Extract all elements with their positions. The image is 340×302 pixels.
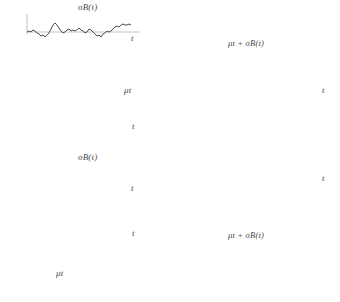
drift-bottom-axis-label: t [132,228,135,238]
drift-top-axis-label: t [132,121,135,131]
drift-top-title: μt [124,85,131,95]
noise-bottom-title: σB(t) [78,152,97,162]
sum-top-title: μt + σB(t) [228,38,264,48]
noise-bottom-axis-label: t [131,183,134,193]
noise-top-curve [27,23,131,37]
drift-bottom-title: μt [56,268,63,278]
brownian-drift-figure: σB(t) t μt t μt + σB(t) t σB(t) t μt t μ… [0,0,340,302]
sum-bottom-axis-label: t [322,173,325,183]
sum-bottom-title: μt + σB(t) [228,230,264,240]
sum-top-axis-label: t [322,85,325,95]
noise-panel-top [27,14,140,37]
figure-canvas [0,0,340,302]
noise-top-title: σB(t) [78,2,97,12]
noise-top-axis-label: t [131,33,134,43]
